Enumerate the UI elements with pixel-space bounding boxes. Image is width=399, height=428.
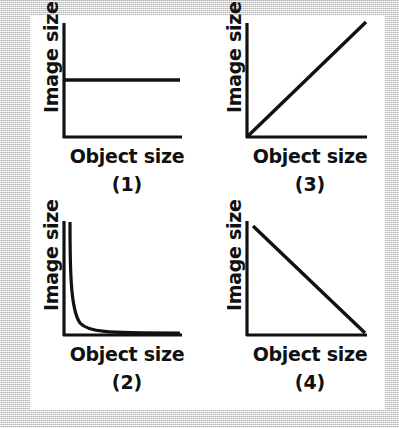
- panel-3-y-axis-label: Image size: [223, 3, 245, 113]
- panel-1-y-axis-label: Image size: [40, 3, 62, 113]
- panel-1-caption: (1): [54, 173, 200, 195]
- panel-4-caption: (4): [237, 371, 383, 393]
- panel-1: Image size Object size (1): [32, 17, 200, 207]
- figure-card: Image size Object size (1) Image size Ob…: [30, 15, 385, 410]
- data-curve-linear-increasing: [248, 22, 366, 136]
- panel-2-x-axis-label: Object size: [54, 343, 200, 365]
- figure-canvas: Image size Object size (1) Image size Ob…: [0, 0, 399, 428]
- panel-3-caption: (3): [237, 173, 383, 195]
- panel-4: Image size Object size (4): [215, 215, 383, 405]
- panel-3-x-axis-label: Object size: [237, 145, 383, 167]
- data-curve-inverse: [70, 222, 180, 333]
- panel-3: Image size Object size (3): [215, 17, 383, 207]
- panel-2-caption: (2): [54, 371, 200, 393]
- panel-4-x-axis-label: Object size: [237, 343, 383, 365]
- panel-2-y-axis-label: Image size: [40, 201, 62, 311]
- data-curve-linear-decreasing: [253, 226, 365, 333]
- panel-2: Image size Object size (2): [32, 215, 200, 405]
- panel-1-x-axis-label: Object size: [54, 145, 200, 167]
- panel-4-y-axis-label: Image size: [223, 201, 245, 311]
